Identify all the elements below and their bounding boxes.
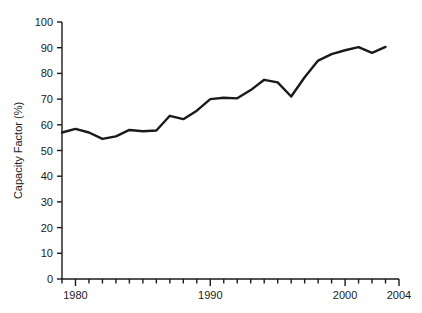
- line-chart: 0102030405060708090100 1980199020002004 …: [0, 0, 422, 313]
- y-axis-tick-label: 70: [41, 93, 53, 105]
- y-axis-tick-label: 20: [41, 222, 53, 234]
- chart-figure: 0102030405060708090100 1980199020002004 …: [0, 0, 422, 313]
- y-axis-tick-label: 80: [41, 67, 53, 79]
- x-axis-tick-label: 1990: [198, 289, 222, 301]
- y-axis-tick-label: 0: [47, 273, 53, 285]
- x-axis-tick-label: 2000: [333, 289, 357, 301]
- y-axis-tick-label: 90: [41, 42, 53, 54]
- y-axis-title: Capacity Factor (%): [12, 102, 24, 199]
- y-axis-tick-label: 100: [35, 16, 53, 28]
- y-axis-tick-label: 40: [41, 170, 53, 182]
- y-axis-tick-label: 50: [41, 145, 53, 157]
- y-axis-tick-label: 30: [41, 196, 53, 208]
- x-axis-tick-label: 1980: [63, 289, 87, 301]
- y-axis-tick-label: 10: [41, 247, 53, 259]
- y-axis-tick-label: 60: [41, 119, 53, 131]
- x-axis-tick-label: 2004: [387, 289, 411, 301]
